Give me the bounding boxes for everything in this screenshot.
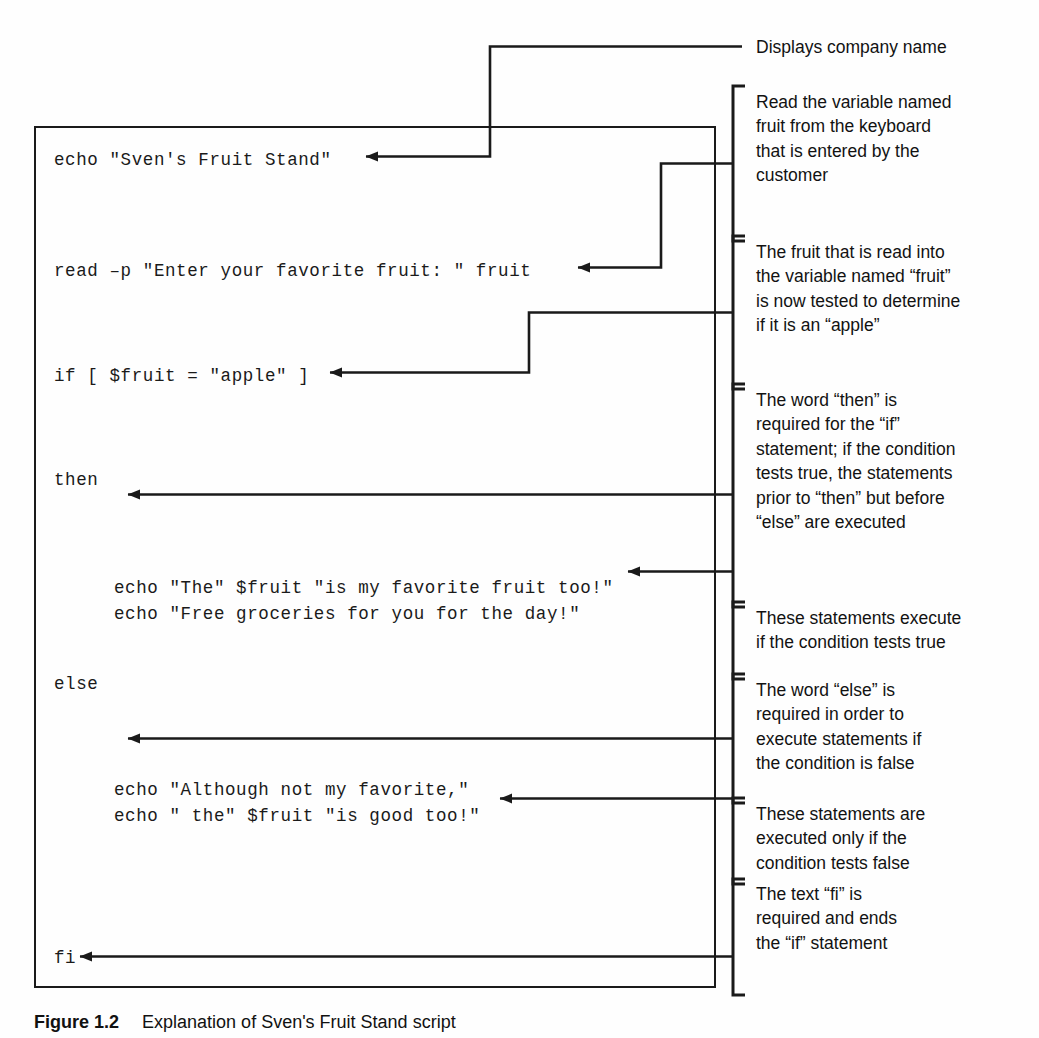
figure-caption: Figure 1.2 Explanation of Sven's Fruit S… <box>34 1012 456 1033</box>
code-line-else: else <box>54 676 98 694</box>
figure-caption-label: Figure 1.2 <box>34 1012 119 1032</box>
code-line-echo-true-1: echo "The" $fruit "is my favorite fruit … <box>114 580 614 598</box>
code-line-echo-true-2: echo "Free groceries for you for the day… <box>114 606 580 624</box>
code-line-echo-title: echo "Sven's Fruit Stand" <box>54 152 332 170</box>
figure-page: echo "Sven's Fruit Stand" read –p "Enter… <box>0 0 1039 1038</box>
code-line-read-fruit: read –p "Enter your favorite fruit: " fr… <box>54 263 531 281</box>
annotation-text-fi: The text “fi” is required and ends the “… <box>756 882 1006 955</box>
code-line-then: then <box>54 472 98 490</box>
figure-caption-text: Explanation of Sven's Fruit Stand script <box>142 1012 456 1032</box>
code-line-echo-false-1: echo "Although not my favorite," <box>114 782 469 800</box>
code-listing-box: echo "Sven's Fruit Stand" read –p "Enter… <box>34 126 716 988</box>
annotation-displays-company-name: Displays company name <box>756 35 1024 59</box>
annotation-word-then: The word “then” is required for the “if”… <box>756 388 1024 534</box>
annotation-word-else: The word “else” is required in order to … <box>756 678 1006 776</box>
annotation-read-variable: Read the variable named fruit from the k… <box>756 90 1006 188</box>
annotation-statements-true: These statements execute if the conditio… <box>756 606 1024 655</box>
code-line-echo-false-2: echo " the" $fruit "is good too!" <box>114 808 480 826</box>
code-line-if-test: if [ $fruit = "apple" ] <box>54 368 309 386</box>
annotation-fruit-tested: The fruit that is read into the variable… <box>756 240 1024 338</box>
annotation-statements-false: These statements are executed only if th… <box>756 802 1006 875</box>
code-line-fi: fi <box>54 950 76 968</box>
